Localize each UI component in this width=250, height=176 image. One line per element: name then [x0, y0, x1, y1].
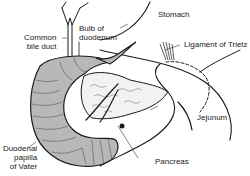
- anatomy-diagram: [0, 0, 250, 176]
- label-papilla-line1: Duodenal: [2, 144, 37, 153]
- jejunum-front: [178, 102, 192, 130]
- label-common-bile-duct-line2: bile duct: [24, 42, 56, 51]
- ligament-of-treitz: [160, 42, 174, 60]
- label-common-bile-duct: Common bile duct: [24, 33, 56, 51]
- label-bulb-line1: Bulb of: [79, 24, 117, 33]
- pancreatic-duct-spot: [120, 124, 125, 129]
- label-bulb-line2: duodenum: [79, 33, 117, 42]
- jejunum-right: [200, 50, 240, 72]
- label-papilla-line2: papilla: [2, 153, 37, 162]
- label-stomach: Stomach: [158, 10, 190, 19]
- label-ligament-of-treitz: Ligament of Trietz: [184, 40, 248, 49]
- jejunum-loop: [166, 62, 209, 112]
- label-pancreas: Pancreas: [155, 157, 189, 166]
- label-bulb-of-duodenum: Bulb of duodenum: [79, 24, 117, 42]
- label-duodenal-papilla: Duodenal papilla of Vater: [2, 144, 37, 171]
- label-jejunum: Jejunum: [197, 113, 227, 122]
- pylorus: [96, 42, 136, 64]
- label-common-bile-duct-line1: Common: [24, 33, 56, 42]
- label-papilla-line3: of Vater: [2, 162, 37, 171]
